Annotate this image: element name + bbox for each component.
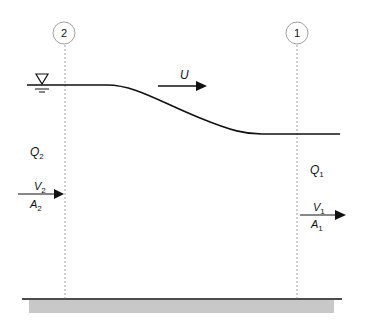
velocity-u-arrow — [158, 81, 207, 91]
water-surface-profile — [27, 85, 340, 134]
velocity-v1-label: V1 — [313, 201, 325, 216]
flow-diagram: 2 1 U Q2 V2 A2 Q1 V1 A1 — [0, 0, 365, 325]
section-1-label: 1 — [294, 27, 300, 39]
area-a1-label: A1 — [310, 218, 323, 233]
water-surface-symbol-icon — [35, 74, 49, 92]
channel-bed-fill — [29, 300, 334, 313]
velocity-v2-label: V2 — [34, 180, 46, 195]
discharge-q1-label: Q1 — [310, 163, 324, 179]
section-2-marker: 2 — [53, 22, 75, 299]
area-a2-label: A2 — [29, 198, 42, 213]
velocity-u-label: U — [180, 68, 189, 82]
discharge-q2-label: Q2 — [30, 145, 44, 161]
section-1-marker: 1 — [286, 22, 308, 299]
section-2-label: 2 — [61, 27, 67, 39]
